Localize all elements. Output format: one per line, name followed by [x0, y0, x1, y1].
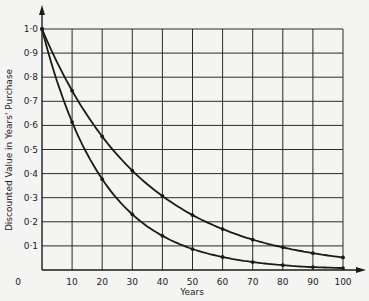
x-tick-label: 90 — [307, 277, 319, 287]
y-tick-label: 1·0 — [24, 24, 39, 34]
data-point — [161, 194, 165, 198]
y-tick-label: 0·6 — [24, 120, 39, 130]
data-point — [281, 263, 285, 267]
data-point — [191, 247, 195, 251]
data-point — [70, 89, 74, 93]
data-point — [251, 238, 255, 242]
y-tick-label: 0·7 — [24, 96, 38, 106]
x-tick-label: 70 — [247, 277, 259, 287]
data-point — [281, 245, 285, 249]
data-point — [161, 234, 165, 238]
y-tick-label: 0·3 — [24, 193, 38, 203]
chart: 0·10·20·30·40·50·60·70·80·91·0 010203040… — [0, 0, 369, 301]
data-point — [40, 27, 44, 31]
x-tick-label: 40 — [157, 277, 169, 287]
data-point — [341, 256, 345, 260]
data-point — [100, 177, 104, 181]
x-tick-label: 50 — [187, 277, 199, 287]
x-tick-label: 30 — [127, 277, 139, 287]
data-point — [221, 255, 225, 259]
x-tick-label: 100 — [334, 277, 351, 287]
data-point — [130, 212, 134, 216]
y-tick-label: 0·1 — [24, 241, 38, 251]
y-tick-label: 0·4 — [24, 169, 39, 179]
y-tick-label: 0·5 — [24, 145, 38, 155]
y-axis-arrow-icon — [39, 5, 45, 15]
x-tick-label: 0 — [15, 277, 21, 287]
y-axis-label: Discounted Value in Years' Purchase — [4, 68, 14, 231]
x-tick-label: 10 — [66, 277, 78, 287]
axes — [39, 5, 366, 273]
data-point — [100, 135, 104, 139]
data-point — [70, 120, 74, 124]
data-point — [221, 227, 225, 231]
x-tick-label: 20 — [96, 277, 108, 287]
grid-lines — [42, 29, 343, 270]
data-point — [191, 213, 195, 217]
x-tick-label: 60 — [217, 277, 229, 287]
data-point — [311, 251, 315, 255]
y-tick-label: 0·8 — [24, 72, 39, 82]
y-tick-label: 0·2 — [24, 217, 38, 227]
x-tick-label: 80 — [277, 277, 289, 287]
y-axis-ticks: 0·10·20·30·40·50·60·70·80·91·0 — [24, 24, 39, 251]
x-axis-label: Years — [179, 287, 204, 297]
x-axis-arrow-icon — [356, 267, 366, 273]
y-tick-label: 0·9 — [24, 48, 39, 58]
data-point — [311, 265, 315, 269]
data-point — [251, 260, 255, 264]
data-point — [130, 169, 134, 173]
x-axis-ticks: 0102030405060708090100 — [15, 277, 352, 287]
data-point — [341, 266, 345, 270]
